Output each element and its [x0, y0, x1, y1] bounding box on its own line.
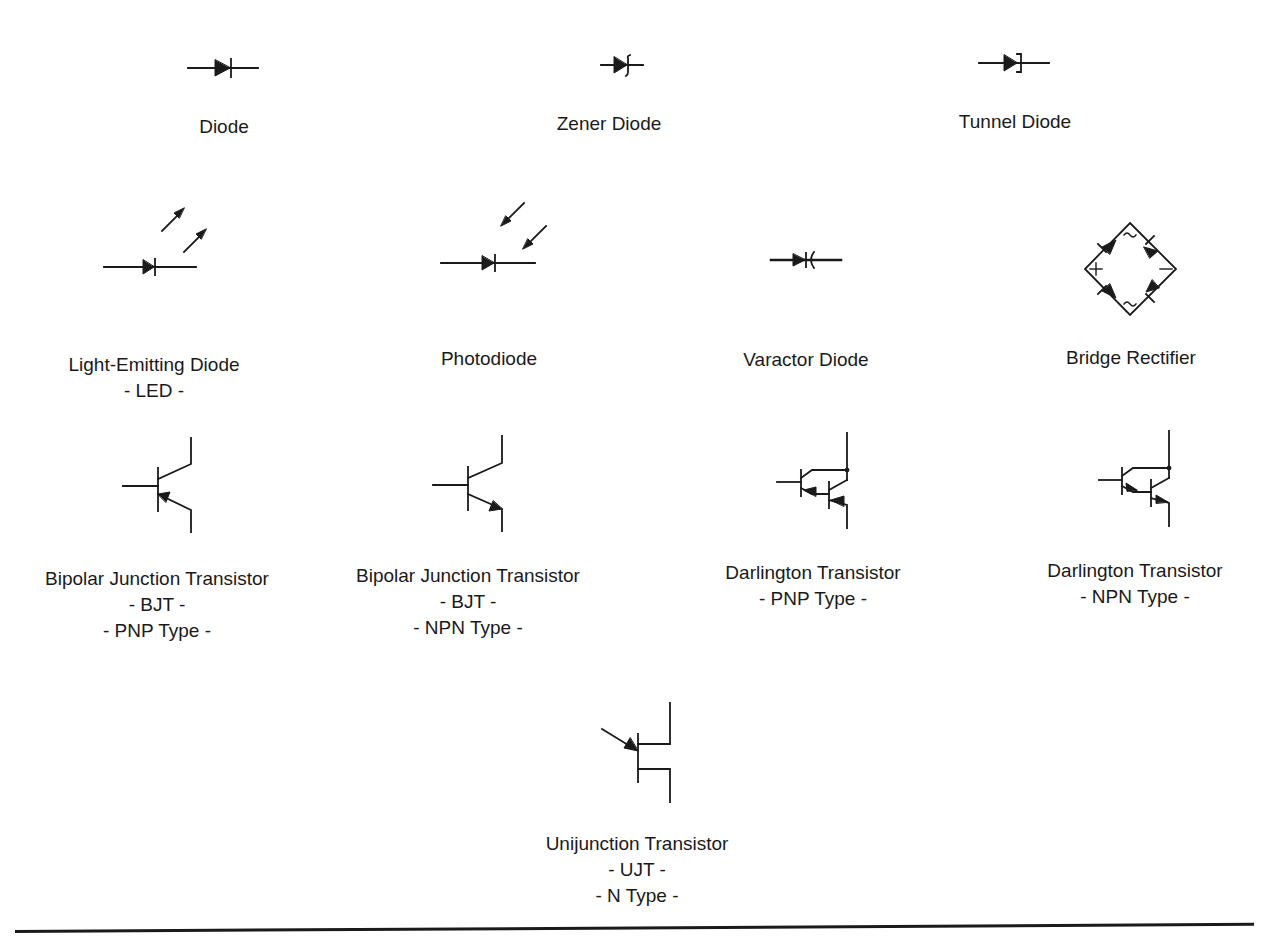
tunnel-diode-symbol-icon: [977, 50, 1053, 76]
darlington-npn-label: Darlington Transistor - NPN Type -: [1047, 558, 1222, 610]
varactor-diode-label: Varactor Diode: [743, 347, 868, 373]
bridge-rectifier-label: Bridge Rectifier: [1066, 345, 1196, 371]
zener-diode-label: Zener Diode: [557, 111, 662, 137]
tunnel-diode-label: Tunnel Diode: [959, 109, 1071, 135]
darlington-pnp-label: Darlington Transistor - PNP Type -: [725, 560, 900, 612]
varactor-diode-symbol-icon: [768, 248, 846, 272]
led-symbol-icon: [100, 202, 210, 282]
bottom-divider: [15, 923, 1254, 933]
darlington-npn-symbol-icon: [1096, 428, 1176, 530]
bjt-npn-symbol-icon: [430, 433, 510, 535]
photodiode-label: Photodiode: [441, 346, 537, 372]
darlington-pnp-symbol-icon: [774, 430, 854, 532]
ujt-n-label: Unijunction Transistor - UJT - - N Type …: [546, 831, 729, 909]
zener-diode-symbol-icon: [598, 52, 648, 80]
photodiode-symbol-icon: [438, 200, 550, 275]
bjt-pnp-symbol-icon: [120, 436, 200, 536]
ujt-n-symbol-icon: [598, 700, 678, 806]
diode-symbol-icon: [185, 56, 265, 84]
led-label: Light-Emitting Diode - LED -: [68, 352, 239, 404]
diode-label: Diode: [199, 114, 249, 140]
bjt-pnp-label: Bipolar Junction Transistor - BJT - - PN…: [45, 566, 269, 644]
bridge-rectifier-symbol-icon: [1082, 220, 1182, 320]
bjt-npn-label: Bipolar Junction Transistor - BJT - - NP…: [356, 563, 580, 641]
